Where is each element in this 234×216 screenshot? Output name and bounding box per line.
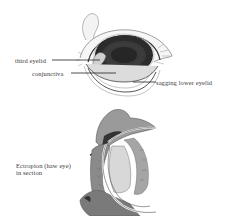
label-sagging-lower-eyelid: sagging lower eyelid bbox=[156, 79, 212, 86]
caption-ectropion: Ectropion (haw eye) in section bbox=[16, 162, 71, 176]
caption-line-2: in section bbox=[16, 169, 71, 176]
caption-line-1: Ectropion (haw eye) bbox=[16, 162, 71, 169]
anatomical-illustration bbox=[0, 0, 234, 216]
label-conjunctiva: conjunctiva bbox=[32, 70, 63, 77]
ectropion-section-drawing bbox=[80, 109, 156, 216]
ectropion-figure: third eyelid conjunctiva sagging lower e… bbox=[0, 0, 234, 216]
label-third-eyelid: third eyelid bbox=[15, 57, 46, 64]
